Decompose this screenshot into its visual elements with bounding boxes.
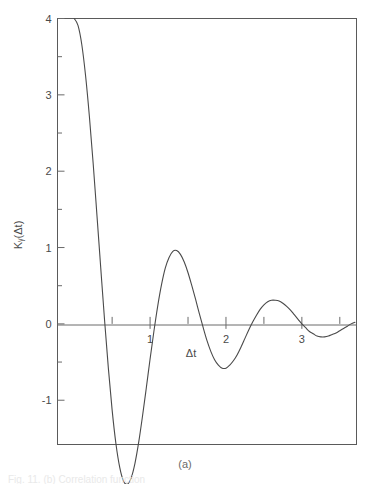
y-axis-title: Kᵧ(Δt) bbox=[12, 221, 25, 250]
correlation-function-chart: -101234 123 Δt Kᵧ(Δt) (a) bbox=[0, 0, 370, 484]
panel-label: (a) bbox=[178, 458, 191, 470]
chart-background bbox=[0, 0, 370, 484]
y-tick-label: -1 bbox=[42, 394, 52, 406]
x-axis-title: Δt bbox=[186, 347, 196, 359]
y-tick-label: 2 bbox=[45, 165, 51, 177]
x-tick-label: 2 bbox=[223, 333, 229, 345]
figure-panel: -101234 123 Δt Kᵧ(Δt) (a) Fig. 11. (b) C… bbox=[0, 0, 370, 484]
y-tick-label: 3 bbox=[45, 89, 51, 101]
figure-caption-cropped: Fig. 11. (b) Correlation function bbox=[8, 474, 360, 484]
y-tick-label: 1 bbox=[45, 242, 51, 254]
y-tick-label: 0 bbox=[45, 318, 51, 330]
x-tick-label: 3 bbox=[299, 333, 305, 345]
y-tick-label: 4 bbox=[45, 13, 51, 25]
